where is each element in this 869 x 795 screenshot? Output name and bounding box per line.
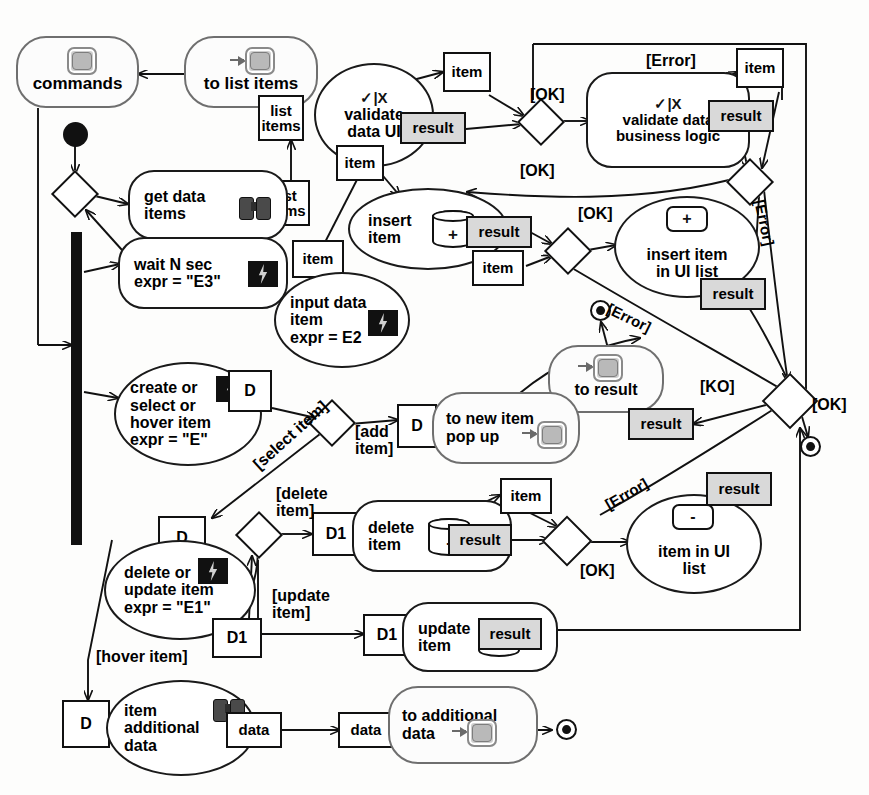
pin-result-validate-bl: result [708, 100, 774, 132]
pin-label: result [719, 481, 760, 496]
pin-result-item-in-ui-list: result [706, 472, 772, 506]
pin-item-validate-ui-bottom: item [336, 145, 384, 181]
activity-label-line-2: data [402, 725, 435, 743]
pin-result-validate-ui: result [400, 112, 466, 144]
activity-to-result-label: to result [574, 381, 637, 399]
pin-label: result [641, 416, 682, 431]
guard-hover-item: [hover item] [96, 648, 188, 666]
activity-label-line-2: list [682, 560, 705, 577]
pin-label: item [511, 488, 542, 503]
pin-result-insert-ui: result [700, 278, 766, 310]
activity-label-line-3: data [124, 737, 157, 754]
pin-result-update: result [478, 618, 542, 650]
activity-get-data-items[interactable]: get data items [128, 170, 288, 240]
flow-in-icon [578, 365, 592, 367]
bolt-icon [248, 261, 278, 287]
activity-input-data-item[interactable]: input data item expr = E2 [274, 272, 410, 368]
pin-list-items-top: list items [258, 95, 304, 141]
activity-label-line-2: item [418, 637, 451, 654]
activity-label-line-2: items [144, 205, 186, 222]
guard-ok-bl-return: [OK] [520, 162, 555, 180]
pin-result-to-result: result [628, 408, 694, 440]
initial-node [63, 122, 88, 147]
activity-label-line-1: item [124, 702, 157, 719]
activity-label-line-1: wait N sec [134, 256, 212, 273]
pin-label: D1 [326, 526, 346, 542]
pin-label: result [460, 532, 501, 547]
pin-item-delete-out: item [500, 478, 552, 514]
activity-label-line-2: item [368, 536, 401, 553]
box-op: - [690, 508, 695, 525]
guard-line-2: item] [355, 440, 393, 457]
guard-line-1: [delete [276, 485, 328, 502]
activity-commands-label: commands [33, 75, 123, 94]
guard-ok-insert: [OK] [578, 205, 613, 223]
screen-icon [467, 719, 497, 747]
pin-label: result [721, 108, 762, 123]
activity-label-line-3: expr = E2 [290, 329, 362, 346]
pin-data-out: data [226, 712, 282, 748]
fork-join-bar [71, 232, 82, 545]
pin-label: result [490, 626, 531, 641]
pin-label: result [413, 120, 454, 135]
pin-d-create-select: D [228, 370, 272, 412]
guard-line-1: [update [272, 587, 330, 604]
pin-d-new-item: D [397, 404, 437, 448]
flow-in-icon [230, 59, 244, 61]
guard-line-1: [add [355, 423, 389, 440]
activity-label-line-1: delete or [124, 564, 191, 581]
activity-label-line-2: item [290, 311, 323, 328]
activity-label-line-1: insert [368, 212, 412, 229]
pin-result-delete: result [448, 524, 512, 556]
activity-label-line-1: to new item [446, 410, 534, 428]
box-minus-icon: - [672, 504, 714, 530]
guard-ok-final: [OK] [812, 396, 847, 414]
binoculars-icon [238, 194, 272, 220]
pin-result-insert-item: result [466, 216, 532, 248]
activity-label-line-3: expr = "E1" [124, 599, 211, 616]
activity-label-line-4: expr = "E" [130, 431, 208, 448]
pin-d-item-additional: D [62, 700, 110, 748]
pin-label: data [351, 722, 382, 737]
activity-label-line-1: validate [344, 106, 404, 123]
activity-wait-n-sec[interactable]: wait N sec expr = "E3" [118, 237, 288, 309]
activity-label-line-1: update [418, 620, 470, 637]
screen-icon [67, 47, 97, 75]
activity-item-in-ui-list[interactable]: - item in UI list [626, 494, 762, 594]
pin-item-validate-ui-out: item [443, 52, 491, 92]
guard-line-2: item] [272, 604, 310, 621]
activity-to-additional-data[interactable]: to additional data [388, 686, 538, 764]
activity-label-line-2: additional [124, 719, 200, 736]
pin-line-1: list [270, 103, 292, 118]
pin-label: item [483, 260, 514, 275]
pin-label: D [411, 418, 423, 434]
pin-d1-delete-update: D1 [212, 618, 262, 658]
pin-label: D1 [377, 627, 397, 643]
flow-in-icon [452, 730, 466, 732]
activity-label-line-1: create or [130, 379, 198, 396]
activity-label-line-2: item [368, 229, 401, 246]
activity-label-line-2: data UI [347, 123, 400, 140]
activity-label-line-2: pop up [446, 428, 499, 446]
final-node-additional-data [556, 719, 577, 740]
bolt-icon [198, 558, 228, 584]
flow-in-icon [522, 432, 536, 434]
box-op: + [682, 210, 691, 227]
pin-item-validate-bl-out: item [736, 48, 784, 88]
activity-label-line-1: validate data [623, 112, 714, 128]
activity-to-list-items-label: to list items [204, 75, 298, 94]
pin-label: result [713, 286, 754, 301]
guard-update-item: [update item] [272, 588, 330, 621]
guard-ok-delete: [OK] [580, 562, 615, 580]
screen-icon [593, 354, 623, 382]
activity-to-new-item-popup[interactable]: to new item pop up [432, 392, 580, 464]
bolt-icon [368, 310, 398, 336]
pin-data-in: data [338, 712, 394, 748]
box-plus-icon: + [666, 206, 708, 232]
activity-commands[interactable]: commands [16, 36, 139, 108]
guard-ok-validate-ui: [OK] [530, 86, 565, 104]
pin-label: item [345, 155, 376, 170]
final-node-ok [800, 436, 821, 457]
pin-label: D1 [227, 630, 247, 646]
pin-label: D [244, 383, 256, 399]
